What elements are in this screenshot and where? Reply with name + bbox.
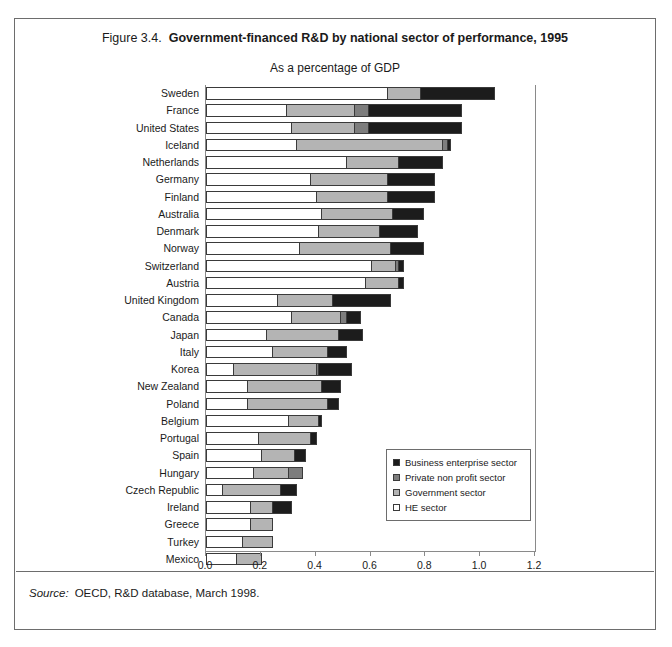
bar-track (206, 242, 535, 254)
legend-label: HE sector (405, 503, 447, 513)
bar-track (206, 139, 535, 151)
bar-category-label: Norway (163, 240, 199, 257)
bar-segment-business (390, 242, 424, 254)
bar-segment-government (250, 518, 273, 530)
x-tick-label: 0.6 (362, 559, 377, 571)
bar-track (206, 122, 535, 134)
bar-row: Netherlands (206, 154, 535, 171)
source-text: OECD, R&D database, March 1998. (75, 587, 260, 599)
x-tick-label: 0.4 (307, 559, 322, 571)
x-tick-label: 1.2 (527, 559, 542, 571)
bar-segment-business (368, 104, 462, 116)
legend-swatch-he (393, 504, 400, 511)
source-divider (16, 571, 654, 572)
x-axis (205, 551, 536, 552)
bar-track (206, 208, 535, 220)
legend-item: Business enterprise sector (393, 455, 524, 470)
bar-segment-private-non-profit (354, 122, 369, 134)
bar-track (206, 260, 535, 272)
bar-track (206, 277, 535, 289)
bar-segment-business (280, 484, 297, 496)
bar-row: Switzerland (206, 258, 535, 275)
bar-track (206, 191, 535, 203)
bar-category-label: Finland (165, 189, 199, 206)
bar-segment-business (294, 449, 306, 461)
bar-row: Portugal (206, 430, 535, 447)
bar-segment-business (387, 173, 435, 185)
bar-category-label: Turkey (167, 534, 199, 551)
x-tick (424, 551, 425, 556)
bar-row: Canada (206, 309, 535, 326)
bar-segment-government (277, 294, 333, 306)
bar-segment-business (379, 225, 418, 237)
bar-category-label: United Kingdom (124, 292, 199, 309)
bar-row: Poland (206, 396, 535, 413)
bar-segment-business (398, 156, 443, 168)
bar-row: Norway (206, 240, 535, 257)
bar-track (206, 156, 535, 168)
x-tick-label: 0.8 (417, 559, 432, 571)
bar-row: United States (206, 120, 535, 137)
x-tick (205, 551, 206, 556)
bar-segment-government (258, 432, 311, 444)
x-tick (479, 551, 480, 556)
bar-track (206, 363, 535, 375)
x-tick-label: 1.0 (472, 559, 487, 571)
bar-track (206, 311, 535, 323)
figure-frame: Figure 3.4.Government-financed R&D by na… (14, 18, 656, 630)
bar-segment-he (206, 139, 297, 151)
source-label: Source: (29, 587, 69, 599)
bar-track (206, 225, 535, 237)
bar-category-label: New Zealand (137, 378, 199, 395)
bar-row: Finland (206, 189, 535, 206)
x-tick-label: 0.0 (198, 559, 213, 571)
bar-row: France (206, 102, 535, 119)
bar-segment-business (346, 311, 361, 323)
bar-segment-government (291, 311, 341, 323)
bar-category-label: Germany (156, 171, 199, 188)
bar-segment-government (346, 156, 399, 168)
bar-segment-business (318, 415, 322, 427)
bar-category-label: Mexico (166, 551, 199, 568)
legend-label: Private non profit sector (405, 473, 505, 483)
bar-segment-he (206, 449, 262, 461)
bar-category-label: Portugal (160, 430, 199, 447)
bar-segment-he (206, 363, 234, 375)
bar-segment-he (206, 518, 251, 530)
bar-track (206, 398, 535, 410)
bar-category-label: Sweden (161, 85, 199, 102)
bar-category-label: Australia (158, 206, 199, 223)
legend-swatch-private-non-profit (393, 474, 400, 481)
bar-segment-government (266, 329, 338, 341)
bar-segment-he (206, 294, 278, 306)
bar-segment-he (206, 536, 243, 548)
bar-segment-he (206, 415, 289, 427)
bar-track (206, 87, 535, 99)
bar-segment-he (206, 467, 254, 479)
legend-swatch-business (393, 459, 400, 466)
legend-label: Business enterprise sector (405, 458, 517, 468)
bar-track (206, 432, 535, 444)
bar-segment-government (365, 277, 399, 289)
bar-segment-he (206, 380, 248, 392)
bar-segment-government (387, 87, 421, 99)
bar-segment-government (261, 449, 295, 461)
bar-row: Austria (206, 275, 535, 292)
bar-segment-business (392, 208, 423, 220)
bar-segment-government (250, 501, 273, 513)
figure-title: Figure 3.4.Government-financed R&D by na… (15, 31, 655, 45)
bar-segment-he (206, 398, 248, 410)
chart-legend: Business enterprise sectorPrivate non pr… (386, 449, 531, 521)
bar-segment-government (272, 346, 328, 358)
bar-segment-government (288, 415, 319, 427)
bar-segment-business (272, 501, 292, 513)
bar-category-label: Czech Republic (125, 482, 199, 499)
bar-segment-government (299, 242, 390, 254)
bar-segment-he (206, 501, 251, 513)
bar-segment-government (296, 139, 442, 151)
bar-segment-private-non-profit (354, 104, 369, 116)
bar-segment-business (327, 346, 347, 358)
bar-segment-he (206, 87, 388, 99)
bar-segment-he (206, 277, 366, 289)
bar-segment-government (316, 191, 388, 203)
